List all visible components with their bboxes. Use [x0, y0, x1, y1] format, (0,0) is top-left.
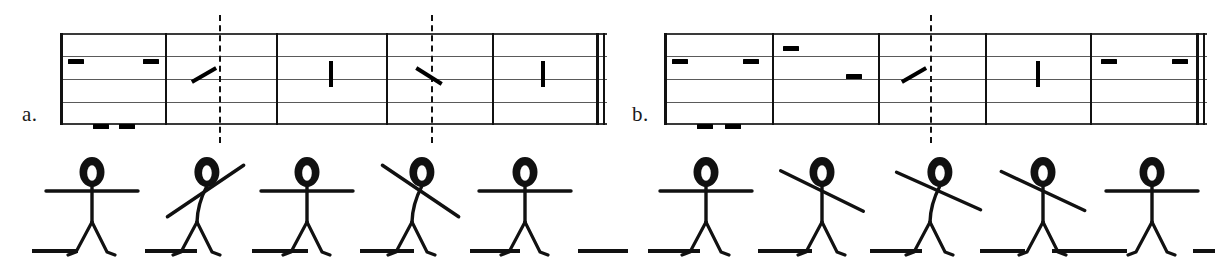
staff-line-3: [664, 79, 1207, 80]
staff-line-2: [60, 56, 607, 57]
dash-mark-a-m1-2: [143, 59, 159, 64]
ground-dash-1: [32, 249, 78, 253]
dash-mark-a-m1-4: [119, 124, 135, 129]
ground-dash-5: [470, 249, 520, 253]
vertical-stroke-b-m4: [1036, 61, 1040, 87]
figure-head-2: [195, 158, 218, 186]
end-barline-thick-a: [596, 33, 599, 125]
end-barline-thick-b: [1196, 33, 1199, 125]
figure-arms-8: [897, 172, 981, 209]
figure-head-highlight-5: [520, 165, 530, 180]
barline-b-2: [772, 33, 774, 125]
end-barline-thin-b: [1203, 33, 1205, 125]
ground-dash-11: [1052, 249, 1096, 253]
figure-head-highlight-8: [935, 165, 945, 180]
figure-head-1: [81, 158, 104, 186]
ground-dash-13: [1193, 249, 1215, 253]
figure-leg-left-7: [798, 222, 822, 255]
figure-leg-right-7: [822, 222, 845, 255]
notation-staff-b: [664, 33, 1207, 125]
figure-arms-4: [382, 165, 458, 216]
figure-leg-left-9: [1019, 222, 1043, 255]
dash-mark-b-m1-2: [743, 59, 759, 64]
figure-leg-right-8: [930, 222, 953, 255]
figure-leg-left-4: [388, 222, 412, 255]
stick-figure-8: [897, 158, 981, 255]
figure-leg-left-8: [906, 222, 930, 255]
figure-leg-right-5: [525, 222, 548, 255]
figure-leg-right-3: [307, 222, 330, 255]
vertical-stroke-a-m5: [541, 61, 545, 87]
figure-head-highlight-1: [87, 165, 97, 180]
figure-leg-left-10: [1128, 222, 1152, 255]
figure-head-highlight-9: [1038, 165, 1048, 180]
ground-dash-8: [758, 249, 812, 253]
figure-head-8: [928, 158, 951, 186]
figure-head-highlight-2: [202, 165, 212, 180]
stick-figure-9: [1001, 158, 1084, 255]
barline-a-1: [60, 33, 63, 125]
stick-figure-5: [479, 158, 571, 255]
ground-dash-3: [252, 249, 308, 253]
staff-line-3: [60, 79, 607, 80]
figure-leg-right-2: [197, 222, 220, 255]
figure-leg-left-1: [68, 222, 92, 255]
figure-arms-9: [1001, 172, 1084, 211]
barline-a-5: [492, 33, 494, 125]
figure-leg-left-3: [283, 222, 307, 255]
figure-head-7: [811, 158, 834, 186]
figure-leg-left-5: [501, 222, 525, 255]
dash-mark-b-m2-2: [846, 74, 862, 79]
notation-staff-a: [60, 33, 607, 125]
dash-mark-b-m1-1: [672, 59, 688, 64]
end-barline-thin-a: [603, 33, 605, 125]
figure-leg-right-4: [412, 222, 435, 255]
figure-head-highlight-10: [1147, 165, 1157, 180]
figure-leg-right-6: [706, 222, 729, 255]
system-a-label: a.: [22, 104, 38, 125]
ground-dash-7: [648, 249, 700, 253]
dash-mark-b-m1-4: [725, 124, 741, 129]
staff-line-1: [60, 33, 607, 35]
ground-dash-6: [578, 249, 628, 253]
figure-arms-2: [167, 165, 243, 216]
dash-mark-a-m1-3: [93, 124, 109, 129]
dash-mark-b-m5-2: [1172, 59, 1188, 64]
staff-line-2: [664, 56, 1207, 57]
vertical-stroke-a-m3: [329, 61, 333, 87]
stick-figure-1: [46, 158, 138, 255]
figure-leg-left-6: [682, 222, 706, 255]
stick-figure-3: [261, 158, 353, 255]
stick-figure-7: [781, 158, 864, 255]
staff-line-5: [60, 123, 607, 125]
figure-leg-left-2: [173, 222, 197, 255]
barline-b-3: [878, 33, 880, 125]
figure-torso-2: [197, 186, 207, 222]
stick-figure-10: [1106, 158, 1198, 255]
barline-b-1: [664, 33, 667, 125]
barline-b-5: [1090, 33, 1092, 125]
stick-figure-4: [382, 158, 458, 255]
figure-head-3: [296, 158, 319, 186]
staff-line-1: [664, 33, 1207, 35]
dashed-beat-marker-b-1: [930, 15, 932, 143]
system-b-label: b.: [632, 104, 649, 125]
dash-mark-b-m5-1: [1101, 59, 1117, 64]
figure-leg-right-10: [1152, 222, 1175, 255]
figure-torso-8: [930, 186, 940, 222]
ground-dash-10: [980, 249, 1025, 253]
ground-dash-2: [145, 249, 197, 253]
ground-dash-9: [870, 249, 922, 253]
figure-head-5: [514, 158, 537, 186]
figure-head-6: [695, 158, 718, 186]
staff-line-5: [664, 123, 1207, 125]
figure-head-highlight-3: [302, 165, 312, 180]
ground-dash-12: [1087, 249, 1127, 253]
figure-page: a. b.: [0, 0, 1218, 272]
figure-leg-right-9: [1043, 222, 1066, 255]
figure-head-highlight-4: [417, 165, 427, 180]
figure-leg-right-1: [92, 222, 115, 255]
ground-dash-4: [360, 249, 414, 253]
stick-figure-6: [660, 158, 752, 255]
barline-a-4: [386, 33, 388, 125]
